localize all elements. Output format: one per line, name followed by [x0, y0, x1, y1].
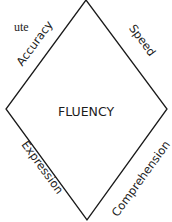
center-label-fluency: FLUENCY: [58, 104, 114, 119]
edge-label-expression: Expression: [18, 138, 66, 197]
fluency-diamond-diagram: ute FLUENCY Accuracy Speed Expression Co…: [0, 0, 172, 222]
cropped-text-fragment: ute: [14, 20, 29, 34]
edge-label-comprehension: Comprehension: [109, 138, 172, 219]
edge-label-speed: Speed: [126, 22, 159, 59]
